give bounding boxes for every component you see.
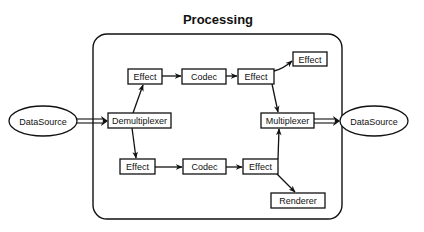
node-effect-top-1: Effect xyxy=(128,69,162,84)
edge-effect-to-multiplexer-bottom xyxy=(278,129,279,159)
edge-effect-to-effect-topright xyxy=(274,61,292,71)
node-label: Effect xyxy=(126,162,149,172)
node-label: Effect xyxy=(245,72,268,82)
node-multiplexer: Multiplexer xyxy=(261,113,314,128)
node-codec-bottom: Codec xyxy=(183,159,226,174)
node-label: Multiplexer xyxy=(266,116,310,126)
node-renderer: Renderer xyxy=(271,193,325,208)
node-effect-bottom-1: Effect xyxy=(120,159,155,174)
edge-effect-to-renderer xyxy=(277,174,295,192)
node-label: DataSource xyxy=(19,117,67,127)
edge-multiplexer-to-datasource xyxy=(314,116,340,126)
node-label: Effect xyxy=(134,72,157,82)
node-effect-top-3: Effect xyxy=(293,52,327,66)
edge-effect-to-multiplexer-top xyxy=(272,84,278,112)
node-label: Renderer xyxy=(279,196,317,206)
node-datasource-out: DataSource xyxy=(340,106,408,136)
diagram-title: Processing xyxy=(183,12,253,27)
node-label: Codec xyxy=(191,72,218,82)
node-label: Codec xyxy=(191,162,218,172)
edge-demux-to-effect-top xyxy=(133,85,143,113)
processing-diagram: Processing xyxy=(0,0,424,232)
node-datasource-in: DataSource xyxy=(9,106,77,136)
node-label: DataSource xyxy=(350,117,398,127)
node-label: Effect xyxy=(299,55,322,65)
node-codec-top: Codec xyxy=(182,69,226,84)
node-label: Effect xyxy=(249,162,272,172)
node-label: Demultiplexer xyxy=(112,116,167,126)
node-demultiplexer: Demultiplexer xyxy=(108,113,171,128)
node-effect-bottom-2: Effect xyxy=(243,159,278,174)
node-effect-top-2: Effect xyxy=(238,69,274,84)
edge-demux-to-effect-bottom xyxy=(132,128,136,158)
